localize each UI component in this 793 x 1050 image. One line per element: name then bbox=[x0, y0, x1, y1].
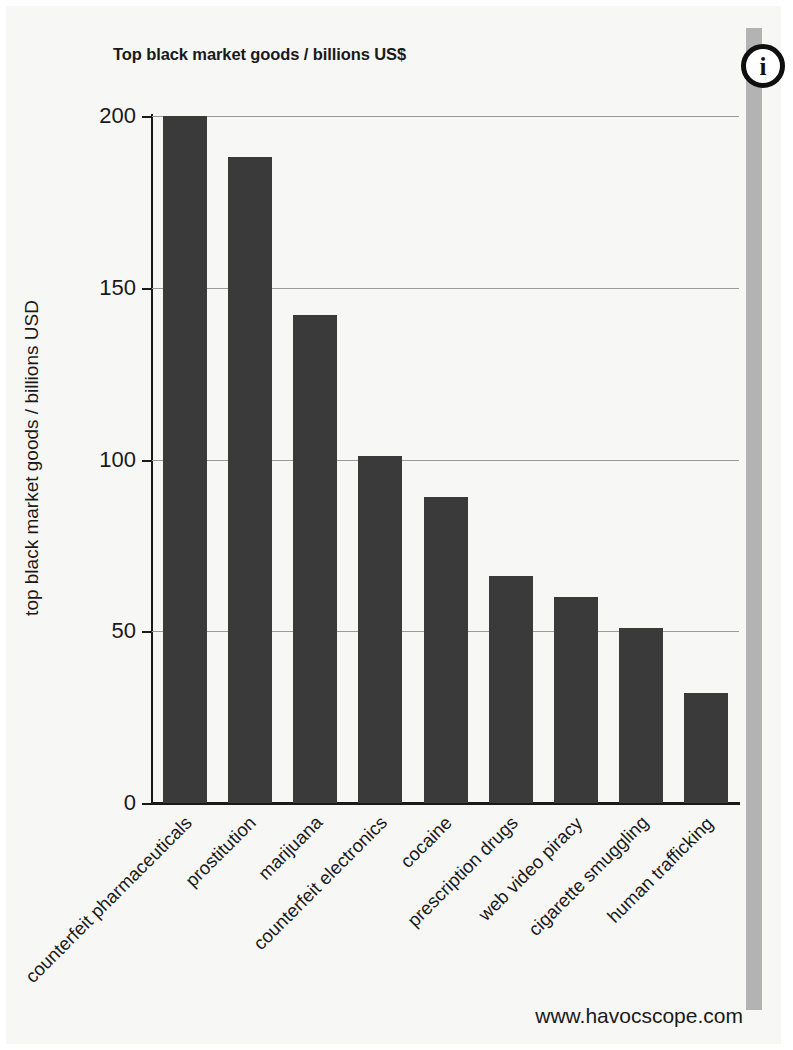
x-axis-tick-label: cigarette smuggling bbox=[524, 812, 653, 941]
x-axis-tick-label: prescription drugs bbox=[403, 812, 523, 932]
source-url: www.havocscope.com bbox=[535, 1004, 743, 1028]
x-axis-tick-label: cocaine bbox=[396, 812, 457, 873]
x-axis-tick-labels: counterfeit pharmaceuticalsprostitutionm… bbox=[0, 0, 793, 1050]
x-axis-tick-label: counterfeit pharmaceuticals bbox=[21, 812, 197, 988]
chart-page: i Top black market goods / billions US$ … bbox=[0, 0, 793, 1050]
